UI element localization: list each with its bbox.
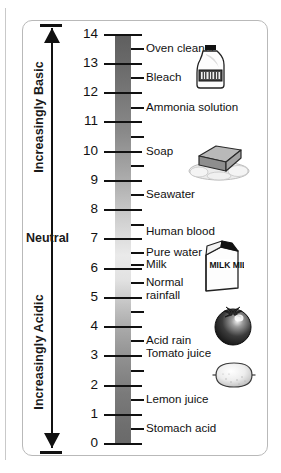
ph-value-11: 11 — [72, 114, 98, 128]
tick-minor-5-5 — [131, 311, 144, 313]
tick-minor-11-5 — [131, 107, 144, 109]
tick-minor-6-5 — [131, 282, 144, 284]
label-tomato-juice: Tomato juice — [146, 347, 211, 360]
ph-scale-column: 14 13 12 11 10 9 8 7 6 5 4 3 2 1 0 — [0, 0, 281, 473]
tick-major-6 — [104, 268, 142, 270]
ph-value-4: 4 — [72, 319, 98, 333]
ph-value-0: 0 — [72, 436, 98, 450]
ph-value-13: 13 — [72, 56, 98, 70]
tick-major-5 — [104, 297, 142, 299]
tick-major-0 — [104, 443, 142, 445]
ph-value-8: 8 — [72, 202, 98, 216]
tick-minor-7-2 — [131, 252, 144, 254]
tick-minor-2-5 — [131, 399, 144, 401]
tick-major-13 — [104, 63, 142, 65]
tick-minor-3-5 — [131, 370, 144, 372]
label-bleach: Bleach — [146, 71, 181, 84]
soap-bar-icon — [186, 138, 252, 182]
label-acid-rain: Acid rain — [146, 334, 191, 347]
tick-major-9 — [104, 180, 142, 182]
tick-minor-4-5 — [131, 340, 144, 342]
lemon-icon — [212, 358, 256, 392]
label-human-blood: Human blood — [146, 225, 215, 238]
tick-major-4 — [104, 326, 142, 328]
tick-minor-8-5 — [131, 194, 144, 196]
ph-value-1: 1 — [72, 407, 98, 421]
ph-value-3: 3 — [72, 348, 98, 362]
tick-major-1 — [104, 414, 142, 416]
tick-minor-9-5 — [131, 165, 144, 167]
label-lemon-juice: Lemon juice — [146, 393, 209, 406]
tick-major-8 — [104, 209, 142, 211]
ph-value-12: 12 — [72, 85, 98, 99]
milk-carton-icon: MILK MILK — [198, 239, 244, 295]
ph-value-7: 7 — [72, 231, 98, 245]
ph-value-10: 10 — [72, 144, 98, 158]
tick-major-14 — [104, 34, 142, 36]
tick-major-2 — [104, 385, 142, 387]
tick-minor-7-5 — [131, 224, 144, 226]
ph-value-2: 2 — [72, 378, 98, 392]
ph-value-6: 6 — [72, 261, 98, 275]
tick-minor-10-5 — [131, 136, 144, 138]
label-ammonia-solution: Ammonia solution — [146, 101, 238, 114]
ph-value-5: 5 — [72, 290, 98, 304]
tick-minor-13-5 — [131, 48, 144, 50]
tick-major-7 — [104, 238, 142, 240]
tick-major-11 — [104, 121, 142, 123]
milk-carton-text: MILK MILK — [210, 260, 245, 270]
tick-minor-1-5 — [131, 428, 144, 430]
ph-scale-diagram: Increasingly Basic Neutral Increasingly … — [0, 0, 281, 473]
ph-value-14: 14 — [72, 27, 98, 41]
label-seawater: Seawater — [146, 188, 195, 201]
tick-major-3 — [104, 355, 142, 357]
bleach-bottle-icon — [190, 44, 230, 90]
label-soap: Soap — [146, 145, 173, 158]
tick-major-12 — [104, 92, 142, 94]
tick-minor-6-8 — [131, 264, 144, 266]
label-stomach-acid: Stomach acid — [146, 422, 216, 435]
tick-major-10 — [104, 151, 142, 153]
tomato-icon — [212, 305, 254, 347]
tick-minor-12-5 — [131, 77, 144, 79]
label-milk: Milk — [146, 258, 167, 271]
ph-value-9: 9 — [72, 173, 98, 187]
